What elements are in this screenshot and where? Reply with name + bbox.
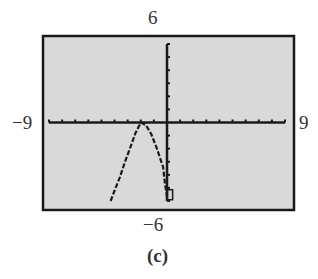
calculator-screen xyxy=(0,0,318,279)
cursor-box xyxy=(168,190,173,200)
